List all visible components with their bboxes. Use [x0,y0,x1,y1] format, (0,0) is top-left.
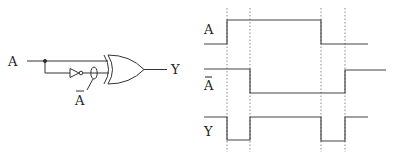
circuit: A Y A [7,54,180,108]
inverter-icon [70,69,79,78]
timing-waveforms: A A Y [203,20,386,141]
signal-label-a-bar: A [203,78,214,93]
waveform-a-bar [204,69,386,93]
timing-guides [227,8,345,152]
signal-label-y: Y [203,124,213,139]
waveform-y [204,117,368,141]
signal-label-a: A [203,22,214,37]
xor-back-curve [104,55,109,84]
probe-pointer [87,79,93,90]
inverted-label: A [74,93,85,108]
branch-wire [45,61,70,73]
output-label-y: Y [170,62,180,77]
waveform-a [204,20,368,44]
input-label-a: A [7,54,18,69]
xor-gate-icon [108,55,144,84]
diagram-canvas: A Y A A A Y [0,0,396,158]
